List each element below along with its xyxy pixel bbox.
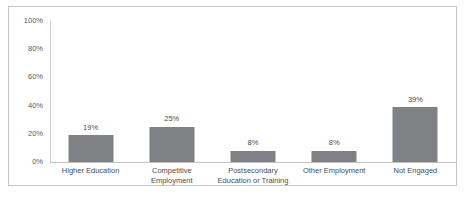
category-axis-label: Other Employment — [294, 166, 375, 176]
y-axis-tick-label: 100% — [24, 17, 43, 25]
bar-slot: 8% — [212, 21, 293, 162]
bar-value-label: 25% — [164, 115, 179, 123]
bar[interactable] — [68, 135, 113, 162]
chart-frame: 100%80%60%40%20%0% 19%25%8%8%39% Higher … — [8, 6, 457, 186]
y-axis-tick-label: 60% — [28, 73, 43, 81]
y-axis-tick-label: 0% — [32, 158, 43, 166]
bar[interactable] — [393, 107, 438, 162]
y-axis-tick-label: 40% — [28, 102, 43, 110]
bar[interactable] — [230, 151, 275, 162]
bar-value-label: 8% — [248, 139, 259, 147]
category-axis-line — [50, 162, 457, 163]
category-axis-label: Higher Education — [50, 166, 131, 176]
bar-slot: 19% — [50, 21, 131, 162]
y-axis-tick-labels: 100%80%60%40%20%0% — [9, 7, 47, 187]
category-axis-label: Competitive Employment — [131, 166, 212, 186]
bar-value-label: 8% — [329, 139, 340, 147]
category-axis-label: Postsecondary Education or Training — [212, 166, 293, 186]
bar[interactable] — [312, 151, 357, 162]
category-axis-label: Not Engaged — [375, 166, 456, 176]
y-axis-tick-label: 20% — [28, 130, 43, 138]
bar-slot: 25% — [131, 21, 212, 162]
y-axis-tick-label: 80% — [28, 45, 43, 53]
category-axis-labels: Higher EducationCompetitive EmploymentPo… — [50, 166, 456, 192]
bar-slot: 8% — [294, 21, 375, 162]
bar-value-label: 39% — [408, 96, 423, 104]
plot-area: 19%25%8%8%39% — [50, 21, 456, 162]
bar[interactable] — [149, 127, 194, 162]
bar-slot: 39% — [375, 21, 456, 162]
bar-value-label: 19% — [83, 124, 98, 132]
